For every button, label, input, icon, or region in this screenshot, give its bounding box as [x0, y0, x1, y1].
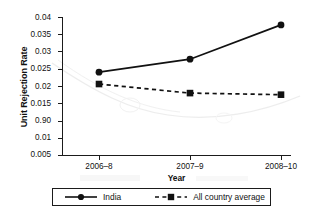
- data-point-marker: [278, 91, 285, 98]
- series-all-country-average: [96, 81, 285, 98]
- data-point-marker: [187, 56, 194, 63]
- legend-solid-line-circle-marker-icon: [64, 191, 98, 203]
- data-point-marker: [96, 81, 103, 88]
- data-point-marker: [187, 90, 194, 97]
- series-line: [99, 25, 281, 72]
- data-point-marker: [96, 69, 103, 76]
- legend-entry-india: India: [64, 189, 121, 205]
- legend-entry-all-country-average: All country average: [154, 189, 265, 205]
- legend-label-india: India: [103, 192, 121, 202]
- series-india: [96, 21, 285, 75]
- legend-dashed-line-square-marker-icon: [154, 191, 188, 203]
- legend-label-all-country-average: All country average: [193, 192, 265, 202]
- chart-legend: India All country average: [52, 188, 271, 206]
- data-point-marker: [278, 21, 285, 28]
- data-series-layer: [0, 0, 321, 213]
- chart-figure: Unit Rejection Rate 0.04 0.035 0.03 0.02…: [0, 0, 321, 213]
